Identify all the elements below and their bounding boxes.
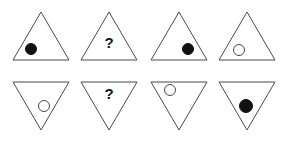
triangle-up-icon bbox=[76, 6, 142, 68]
triangle-up-icon bbox=[214, 6, 280, 68]
figure-cell bbox=[8, 6, 74, 68]
triangle-up-icon bbox=[8, 6, 74, 68]
figure-cell: ? bbox=[76, 76, 142, 138]
figure-cell bbox=[214, 76, 280, 138]
puzzle-grid: ?? bbox=[0, 0, 286, 142]
figure-cell bbox=[8, 76, 74, 138]
figure-cell bbox=[214, 6, 280, 68]
triangle-down-icon bbox=[8, 76, 74, 138]
triangle-down-icon bbox=[146, 76, 212, 138]
figure-cell: ? bbox=[76, 6, 142, 68]
triangle-down-icon bbox=[214, 76, 280, 138]
figure-cell bbox=[146, 6, 212, 68]
figure-cell bbox=[146, 76, 212, 138]
triangle-up-icon bbox=[146, 6, 212, 68]
triangle-down-icon bbox=[76, 76, 142, 138]
